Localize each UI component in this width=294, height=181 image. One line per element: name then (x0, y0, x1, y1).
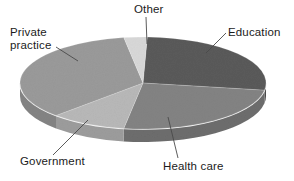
pie-slice-education (143, 37, 266, 90)
slice-label-private-practice-line2: practice (10, 39, 80, 52)
slice-label-other: Other (134, 3, 164, 16)
slice-label-private-practice-line1: Private (10, 26, 80, 39)
slice-label-health-care: Health care (163, 160, 223, 173)
slice-label-government: Government (20, 155, 85, 168)
slice-label-private-practice: Private practice (10, 26, 80, 52)
pie-chart: Other Education Private practice Governm… (0, 0, 294, 181)
slice-label-education: Education (228, 26, 281, 39)
